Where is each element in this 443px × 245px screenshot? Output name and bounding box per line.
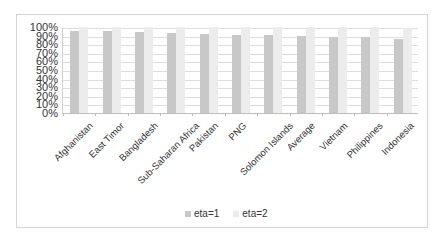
- bar-eta2: [273, 27, 282, 113]
- plot-area: [62, 28, 418, 114]
- legend-swatch-eta1: [185, 211, 191, 217]
- legend-swatch-eta2: [233, 211, 239, 217]
- bar-eta1: [200, 34, 209, 113]
- x-tick: [387, 113, 388, 116]
- x-tick: [160, 113, 161, 116]
- bar-eta1: [264, 35, 273, 113]
- bar-eta1: [70, 31, 79, 113]
- bar-eta2: [306, 27, 315, 113]
- bar-eta2: [209, 27, 218, 113]
- y-tick-label: 100%: [18, 22, 58, 33]
- x-tick: [192, 113, 193, 116]
- bar-eta1: [329, 37, 338, 113]
- bar-eta1: [167, 33, 176, 113]
- bar-eta1: [135, 32, 144, 113]
- bar-eta1: [361, 37, 370, 113]
- bar-eta1: [394, 39, 403, 113]
- bar-eta1: [232, 35, 241, 113]
- x-tick: [322, 113, 323, 116]
- x-tick: [290, 113, 291, 116]
- x-tick: [225, 113, 226, 116]
- legend-label-eta2: eta=2: [242, 208, 267, 219]
- x-tick: [63, 113, 64, 116]
- bar-eta2: [338, 27, 347, 113]
- legend-item-eta2: eta=2: [233, 208, 267, 219]
- bar-eta2: [144, 27, 153, 113]
- bar-eta2: [112, 27, 121, 113]
- bar-eta2: [241, 27, 250, 113]
- legend: eta=1 eta=2: [185, 208, 282, 219]
- legend-label-eta1: eta=1: [194, 208, 219, 219]
- bar-eta2: [403, 28, 412, 113]
- x-tick: [128, 113, 129, 116]
- x-tick: [354, 113, 355, 116]
- bar-eta2: [370, 27, 379, 113]
- bar-eta1: [297, 36, 306, 113]
- bar-eta2: [79, 27, 88, 113]
- bar-eta2: [176, 27, 185, 113]
- legend-item-eta1: eta=1: [185, 208, 219, 219]
- x-tick: [257, 113, 258, 116]
- bar-eta1: [103, 31, 112, 113]
- x-tick: [95, 113, 96, 116]
